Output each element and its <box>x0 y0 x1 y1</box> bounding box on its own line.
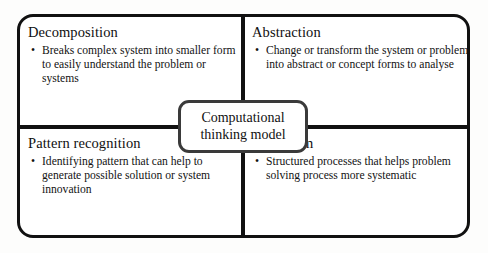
bullet-text: Structured processes that helps problem … <box>266 155 451 182</box>
bullet-dot-icon: • <box>31 155 35 169</box>
quadrant-bullets-decomposition: • Breaks complex system into smaller for… <box>21 44 240 86</box>
bullet-text: Identifying pattern that can help to gen… <box>42 155 210 196</box>
bullet-dot-icon: • <box>255 44 259 58</box>
quadrant-bullets-algorithm: • Structured processes that helps proble… <box>245 155 469 183</box>
center-node-computational-thinking-model: Computational thinking model <box>178 100 308 153</box>
bullet-text: Change or transform the system or proble… <box>266 44 468 71</box>
bullet-text: Breaks complex system into smaller form … <box>42 44 236 85</box>
quadrant-title-abstraction: Abstraction <box>252 25 469 41</box>
bullet-item: • Breaks complex system into smaller for… <box>29 44 240 86</box>
bullet-dot-icon: • <box>255 155 259 169</box>
computational-thinking-diagram: Decomposition • Breaks complex system in… <box>0 0 488 253</box>
quadrant-bullets-pattern-recognition: • Identifying pattern that can help to g… <box>21 155 240 197</box>
center-node-label: Computational thinking model <box>196 110 289 143</box>
bullet-item: • Change or transform the system or prob… <box>253 44 469 72</box>
quadrant-title-decomposition: Decomposition <box>28 25 240 41</box>
bullet-item: • Structured processes that helps proble… <box>253 155 469 183</box>
bullet-item: • Identifying pattern that can help to g… <box>29 155 240 197</box>
bullet-dot-icon: • <box>31 44 35 58</box>
quadrant-bullets-abstraction: • Change or transform the system or prob… <box>245 44 469 72</box>
